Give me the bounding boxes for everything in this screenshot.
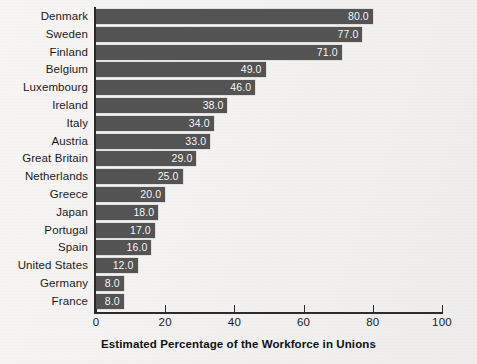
category-label: Ireland (52, 98, 88, 113)
bar[interactable]: 33.0 (96, 134, 210, 149)
bar-value-label: 34.0 (189, 116, 210, 131)
category-label: Netherlands (25, 169, 88, 184)
bar-value-label: 12.0 (113, 258, 134, 273)
bar[interactable]: 46.0 (96, 80, 255, 95)
category-label: France (52, 294, 88, 309)
category-label: Belgium (46, 62, 88, 77)
bar-value-label: 77.0 (338, 27, 359, 42)
x-axis-tick-label: 80 (366, 316, 379, 328)
category-label: Japan (56, 205, 88, 220)
bar[interactable]: 77.0 (96, 27, 362, 42)
bar[interactable]: 8.0 (96, 276, 124, 291)
bar-row: Germany8.0 (0, 276, 477, 291)
category-label: Austria (52, 134, 89, 149)
bar[interactable]: 71.0 (96, 45, 342, 60)
bar-value-label: 71.0 (317, 45, 338, 60)
bar-value-label: 38.0 (203, 98, 224, 113)
x-axis-line (94, 312, 443, 314)
category-label: Italy (66, 116, 88, 131)
bar[interactable]: 8.0 (96, 294, 124, 309)
bar[interactable]: 80.0 (96, 9, 373, 24)
bar[interactable]: 29.0 (96, 151, 196, 166)
bar[interactable]: 34.0 (96, 116, 214, 131)
bar-row: Netherlands25.0 (0, 169, 477, 184)
bar[interactable]: 16.0 (96, 240, 151, 255)
bar-value-label: 8.0 (105, 294, 120, 309)
category-label: Luxembourg (23, 80, 88, 95)
bar-row: Sweden77.0 (0, 27, 477, 42)
bar-value-label: 46.0 (230, 80, 251, 95)
x-axis-tick-label: 60 (297, 316, 310, 328)
x-axis-tick-label: 20 (159, 316, 172, 328)
bar-row: Finland71.0 (0, 45, 477, 60)
bar[interactable]: 20.0 (96, 187, 165, 202)
bar-row: Greece20.0 (0, 187, 477, 202)
bar-value-label: 8.0 (105, 276, 120, 291)
bar[interactable]: 12.0 (96, 258, 138, 273)
bar-value-label: 49.0 (241, 62, 262, 77)
bar-row: United States12.0 (0, 258, 477, 273)
bar-row: Ireland38.0 (0, 98, 477, 113)
bar-row: Belgium49.0 (0, 62, 477, 77)
union-membership-bar-chart: 020406080100Denmark80.0Sweden77.0Finland… (0, 0, 477, 364)
x-axis-title: Estimated Percentage of the Workforce in… (0, 338, 477, 350)
bar-row: Great Britain29.0 (0, 151, 477, 166)
bar-value-label: 29.0 (171, 151, 192, 166)
category-label: Spain (58, 240, 88, 255)
bar-row: Italy34.0 (0, 116, 477, 131)
bar-value-label: 33.0 (185, 134, 206, 149)
category-label: Finland (50, 45, 88, 60)
bar-row: Spain16.0 (0, 240, 477, 255)
bar-value-label: 80.0 (348, 9, 369, 24)
bar-value-label: 16.0 (127, 240, 148, 255)
category-label: Germany (40, 276, 88, 291)
bar-row: Luxembourg46.0 (0, 80, 477, 95)
category-label: Greece (50, 187, 88, 202)
category-label: Sweden (46, 27, 88, 42)
bar[interactable]: 38.0 (96, 98, 227, 113)
bar-row: France8.0 (0, 294, 477, 309)
bar-value-label: 20.0 (140, 187, 161, 202)
bar-row: Austria33.0 (0, 134, 477, 149)
bar-row: Japan18.0 (0, 205, 477, 220)
category-label: Portugal (44, 223, 88, 238)
bar-value-label: 18.0 (133, 205, 154, 220)
bar[interactable]: 17.0 (96, 223, 155, 238)
plot-area: 020406080100Denmark80.0Sweden77.0Finland… (0, 0, 477, 364)
bar[interactable]: 25.0 (96, 169, 183, 184)
bar-value-label: 25.0 (158, 169, 179, 184)
category-label: Great Britain (22, 151, 88, 166)
bar-row: Portugal17.0 (0, 223, 477, 238)
x-axis-tick-label: 0 (93, 316, 100, 328)
bar-value-label: 17.0 (130, 223, 151, 238)
bar-row: Denmark80.0 (0, 9, 477, 24)
category-label: Denmark (41, 9, 88, 24)
x-axis-tick-label: 40 (228, 316, 241, 328)
bar[interactable]: 49.0 (96, 62, 266, 77)
bar[interactable]: 18.0 (96, 205, 158, 220)
x-axis-tick-label: 100 (432, 316, 452, 328)
category-label: United States (18, 258, 88, 273)
